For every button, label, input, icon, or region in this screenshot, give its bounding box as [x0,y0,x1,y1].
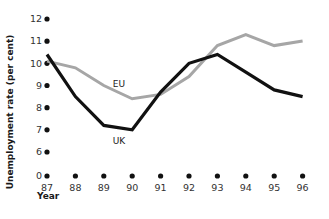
y-tick-label: 8 [36,102,42,113]
series-line-uk [47,55,303,130]
y-axis: 06789101112 [30,13,50,181]
x-tick-dot [272,173,277,178]
x-tick-dot [215,173,220,178]
y-tick-dot [44,127,49,132]
series-layer [47,35,303,130]
line-chart: 06789101112 87888990919293949596 EUUK Ye… [0,0,329,219]
x-axis: 87888990919293949596 [41,173,309,193]
series-line-eu [47,35,303,99]
y-tick-label: 0 [36,170,42,181]
x-tick-label: 94 [240,182,252,193]
y-tick-dot [44,39,49,44]
y-tick-dot [44,149,49,154]
x-axis-title: Year [36,191,60,201]
x-tick-dot [243,173,248,178]
y-tick-dot [44,105,49,110]
y-tick-label: 6 [36,146,42,157]
x-tick-label: 92 [183,182,195,193]
y-axis-title: Unemployment rate (per cent) [5,35,15,190]
y-tick-label: 12 [30,13,42,24]
x-tick-label: 96 [297,182,309,193]
x-tick-dot [73,173,78,178]
x-tick-label: 89 [98,182,110,193]
x-tick-dot [300,173,305,178]
y-tick-label: 9 [36,80,42,91]
y-tick-label: 10 [30,58,42,69]
y-tick-label: 11 [30,35,42,46]
x-tick-dot [186,173,191,178]
x-tick-label: 95 [268,182,280,193]
series-label-uk: UK [113,136,127,146]
y-tick-dot [44,83,49,88]
x-tick-label: 93 [211,182,223,193]
x-tick-label: 90 [126,182,138,193]
series-label-eu: EU [113,79,125,89]
x-tick-label: 91 [155,182,167,193]
y-tick-dot [44,173,49,178]
x-tick-dot [130,173,135,178]
y-tick-dot [44,16,49,21]
y-tick-label: 7 [36,124,42,135]
x-tick-dot [101,173,106,178]
x-tick-dot [158,173,163,178]
x-tick-label: 88 [69,182,81,193]
